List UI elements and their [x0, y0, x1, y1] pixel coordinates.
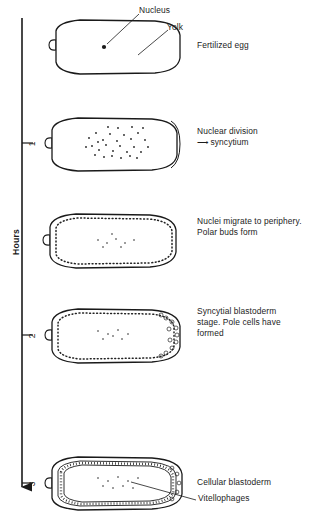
embryo-development-diagram: Hours 1 2 3 Nucleus Yolk Vitellophages F… — [0, 0, 334, 516]
stage-label-cellular-blastoderm: Cellular blastoderm — [197, 477, 271, 488]
time-axis — [22, 18, 33, 487]
stage-nuclei-migrate — [43, 214, 176, 268]
axis-tick-label-2: 2 — [27, 331, 37, 341]
callout-yolk: Yolk — [167, 22, 183, 33]
stage-label-fertilized-egg: Fertilized egg — [197, 40, 249, 51]
axis-title: Hours — [11, 212, 21, 272]
micropyle — [45, 138, 52, 148]
stage-nuclear-division — [45, 118, 180, 171]
stage-syncytial-blastoderm — [45, 309, 180, 363]
callout-vitellophages: Vitellophages — [198, 493, 249, 504]
micropyle — [45, 330, 52, 340]
egg-outline — [52, 457, 182, 510]
micropyle — [49, 40, 56, 50]
stage-label-syncytial-blastoderm: Syncytial blastoderm stage. Pole cells h… — [197, 306, 281, 339]
nucleus-dot — [102, 45, 106, 49]
diagram-canvas — [0, 0, 334, 516]
egg-outline — [52, 118, 177, 171]
axis-tick-label-3: 3 — [27, 479, 37, 489]
stage-label-nuclei-migrate: Nuclei migrate to periphery. Polar buds … — [197, 216, 302, 238]
callout-nucleus: Nucleus — [139, 5, 170, 16]
axis-tick-label-1: 1 — [27, 139, 37, 149]
stage-fertilized-egg — [49, 14, 180, 74]
egg-outline — [56, 20, 180, 74]
micropyle — [43, 235, 50, 245]
egg-outline — [50, 214, 176, 268]
micropyle — [45, 478, 52, 488]
stage-cellular-blastoderm — [45, 457, 196, 510]
stage-label-nuclear-division: Nuclear division ⟶ syncytium — [197, 126, 258, 148]
